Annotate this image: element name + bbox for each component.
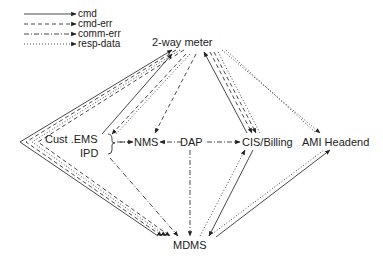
node-dap: DAP (180, 136, 203, 148)
node-cust-ems: Cust .EMS (45, 133, 98, 145)
group-brace (108, 134, 115, 154)
node-mdms: MDMS (173, 239, 207, 251)
node-nms: NMS (134, 136, 158, 148)
legend-lines (24, 14, 76, 44)
node-ami-headend: AMI Headend (302, 136, 369, 148)
node-2-way-meter: 2-way meter (152, 36, 213, 48)
legend-label-resp-data: resp-data (78, 38, 120, 49)
node-cis-billing: CIS/Billing (242, 136, 293, 148)
node-ipd: IPD (80, 147, 98, 159)
